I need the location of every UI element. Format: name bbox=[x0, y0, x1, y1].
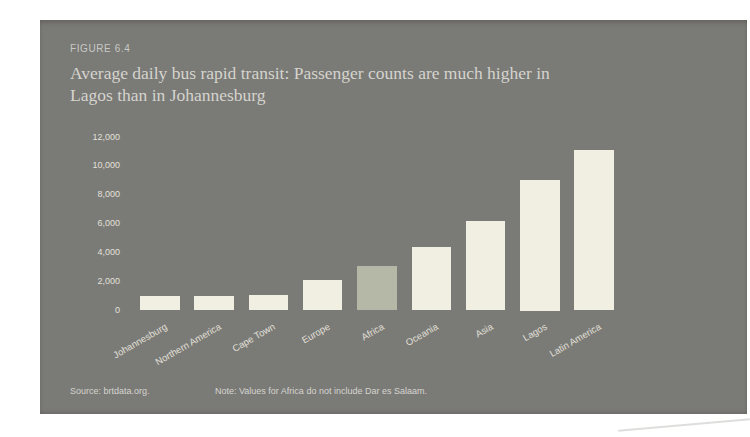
bar-europe bbox=[303, 280, 343, 310]
y-axis-tick-label: 8,000 bbox=[40, 189, 120, 199]
bar-oceania bbox=[412, 247, 452, 311]
x-axis-tick-label: Northern America bbox=[122, 320, 223, 385]
bar-latin-america bbox=[574, 150, 614, 310]
page: FIGURE 6.4 Average daily bus rapid trans… bbox=[0, 0, 750, 437]
x-axis-tick-label: Latin America bbox=[502, 320, 603, 385]
y-axis-tick-label: 10,000 bbox=[40, 160, 120, 170]
x-axis-tick-label: Oceania bbox=[339, 320, 440, 385]
x-axis-tick-label: Cape Town bbox=[176, 320, 277, 385]
x-axis-tick-label: Africa bbox=[285, 320, 386, 385]
bar-cape-town bbox=[249, 295, 289, 311]
y-axis-tick-label: 0 bbox=[40, 305, 120, 315]
bar-chart: 02,0004,0006,0008,00010,00012,000Johanne… bbox=[40, 20, 747, 414]
y-axis-tick-label: 2,000 bbox=[40, 276, 120, 286]
scan-artifact-line bbox=[618, 418, 750, 431]
x-axis-tick-label: Lagos bbox=[448, 320, 549, 385]
y-axis-tick-label: 6,000 bbox=[40, 218, 120, 228]
source-note: Source: brtdata.org. bbox=[70, 386, 150, 396]
figure-panel: FIGURE 6.4 Average daily bus rapid trans… bbox=[40, 20, 747, 414]
x-axis-tick-label: Asia bbox=[394, 320, 495, 385]
bar-northern-america bbox=[194, 296, 234, 310]
y-axis-tick-label: 4,000 bbox=[40, 247, 120, 257]
bar-asia bbox=[466, 221, 506, 311]
x-axis-tick-label: Europe bbox=[231, 320, 332, 385]
y-axis-tick-label: 12,000 bbox=[40, 132, 120, 142]
bar-africa bbox=[357, 266, 397, 311]
bar-johannesburg bbox=[140, 296, 180, 310]
africa-note: Note: Values for Africa do not include D… bbox=[215, 386, 427, 396]
x-axis-tick-label: Johannesburg bbox=[68, 320, 169, 385]
bar-lagos bbox=[520, 180, 560, 310]
